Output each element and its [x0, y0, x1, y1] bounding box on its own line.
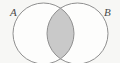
set-label-a: A	[10, 7, 17, 18]
venn-diagram-canvas	[0, 0, 120, 63]
set-label-b: B	[104, 7, 111, 18]
venn-diagram: A B	[0, 0, 120, 63]
